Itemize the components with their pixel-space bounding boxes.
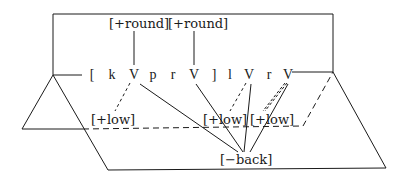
low-feature-1: [+low] — [91, 113, 135, 126]
low-feature-2: [+low] — [203, 113, 247, 126]
skeleton-seg-k: k — [109, 68, 116, 82]
skeleton-seg-r1: r — [171, 68, 176, 82]
skeleton-close-bracket: ] — [212, 68, 217, 82]
low-feature-3: [+low] — [250, 113, 294, 126]
skeleton-seg-v2: V — [189, 68, 199, 82]
low-link-3b — [265, 83, 287, 111]
round-feature-1: [+round] — [109, 17, 169, 30]
lower-plane-base — [108, 168, 386, 170]
skeleton-seg-v3: V — [244, 68, 254, 82]
middle-plane-right-dashed — [303, 72, 333, 126]
skeleton-seg-v1: V — [129, 68, 139, 82]
round-feature-2: [+round] — [168, 17, 228, 30]
back-feature: [−back] — [220, 153, 272, 166]
left-plane-leg — [22, 75, 53, 129]
low-link-1 — [115, 83, 130, 111]
diagram-canvas: [+round] [+round] [ k V p r V ] l V r V … — [0, 0, 404, 181]
lower-plane-right-edge — [333, 72, 386, 168]
skeleton-seg-v4: V — [283, 68, 293, 82]
skeleton-open-bracket: [ — [90, 68, 95, 82]
skeleton-seg-l: l — [228, 68, 232, 82]
low-link-3a — [263, 83, 285, 111]
skeleton-seg-p: p — [150, 68, 157, 82]
low-link-2 — [230, 83, 246, 111]
skeleton-seg-r2: r — [267, 68, 272, 82]
